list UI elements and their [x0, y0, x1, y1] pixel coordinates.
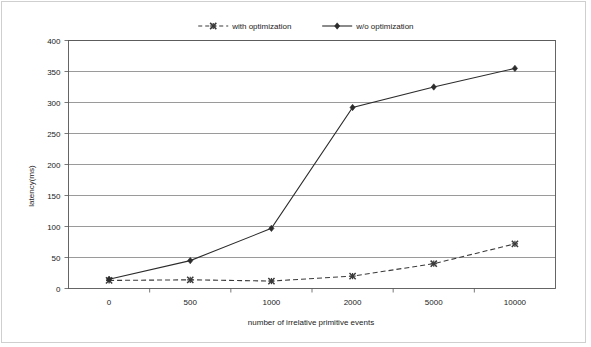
legend-item: with optimization	[198, 22, 291, 31]
series-line	[109, 68, 515, 279]
data-series	[106, 241, 518, 284]
x-axis-ticks	[150, 289, 475, 293]
y-axis-tick-label: 150	[47, 192, 61, 201]
y-axis-tick-label: 350	[47, 68, 61, 77]
y-axis-tick-label: 100	[47, 223, 61, 232]
gridlines	[69, 41, 556, 258]
x-axis-tick-label: 0	[107, 298, 112, 307]
y-axis-tick-label: 300	[47, 99, 61, 108]
x-axis-tick-label: 10000	[504, 298, 527, 307]
data-point-marker	[512, 241, 518, 247]
y-axis-tick-label: 400	[47, 37, 61, 46]
data-point-marker	[187, 277, 193, 283]
x-axis-tick-label: 2000	[344, 298, 362, 307]
y-axis-tick-label: 50	[52, 254, 61, 263]
data-point-marker	[431, 261, 437, 267]
x-axis-tick-label: 500	[184, 298, 198, 307]
data-point-marker	[349, 273, 355, 279]
legend-label: w/o optimization	[355, 22, 413, 31]
chart-legend: with optimizationw/o optimization	[198, 22, 413, 31]
legend-item: w/o optimization	[322, 22, 413, 31]
data-series-layer	[106, 65, 518, 284]
y-axis-ticks	[65, 41, 69, 289]
data-point-marker	[431, 84, 436, 90]
data-point-marker	[188, 257, 193, 263]
y-axis-tick-labels: 050100150200250300350400	[47, 37, 61, 294]
data-point-marker	[335, 23, 340, 29]
data-point-marker	[512, 65, 517, 71]
y-axis-tick-label: 200	[47, 161, 61, 170]
y-axis-tick-label: 250	[47, 130, 61, 139]
y-axis-title: latency(ms)	[27, 165, 36, 207]
data-point-marker	[268, 278, 274, 284]
x-axis-title: number of irrelative primitive events	[248, 318, 374, 327]
chart-figure: 050100150200250300350400 050010002000500…	[0, 0, 591, 347]
data-point-marker	[210, 23, 216, 29]
x-axis-tick-labels: 050010002000500010000	[107, 298, 527, 307]
y-axis-tick-label: 0	[56, 285, 61, 294]
x-axis-tick-label: 5000	[425, 298, 443, 307]
series-line	[109, 244, 515, 281]
legend-label: with optimization	[231, 22, 291, 31]
x-axis-tick-label: 1000	[263, 298, 281, 307]
chart-canvas: 050100150200250300350400 050010002000500…	[0, 0, 591, 347]
data-series	[106, 65, 517, 282]
